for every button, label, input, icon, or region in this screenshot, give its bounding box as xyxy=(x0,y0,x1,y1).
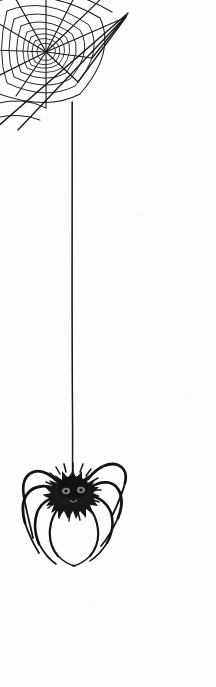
cobweb-illustration xyxy=(0,0,216,687)
spider-illustration xyxy=(23,463,126,566)
cobweb-radials xyxy=(0,0,124,108)
silk-thread xyxy=(72,102,73,479)
cobweb-group xyxy=(0,0,128,130)
drawing-canvas: A black spider dangling on a long silk t… xyxy=(0,0,216,687)
spider-body xyxy=(44,463,101,521)
